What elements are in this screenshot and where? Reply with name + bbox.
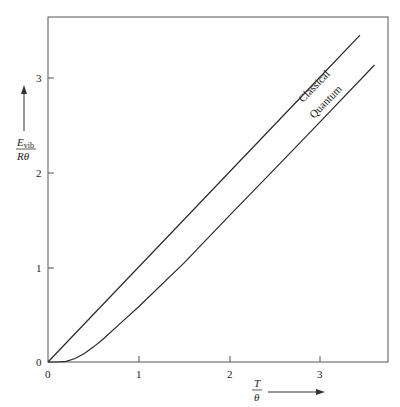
y-tick-label: 0 [36, 356, 42, 368]
plot-frame [48, 17, 388, 362]
arrow-right-icon [316, 389, 325, 395]
svg-text:Evib: Evib [16, 136, 34, 150]
x-axis-label: T θ [252, 377, 325, 403]
y-tick-label: 3 [36, 72, 42, 84]
x-tick-label: 2 [227, 368, 233, 380]
x-tick-label: 1 [136, 368, 142, 380]
x-axis: 0 1 2 3 [45, 356, 323, 380]
chart: 0 1 2 3 0 1 2 3 Evib Rθ T θ Classical Qu… [0, 0, 400, 407]
y-tick-label: 1 [36, 262, 42, 274]
svg-text:Rθ: Rθ [16, 150, 30, 162]
svg-text:T: T [254, 377, 261, 389]
arrow-up-icon [21, 85, 27, 94]
x-tick-label: 3 [317, 368, 323, 380]
svg-text:θ: θ [254, 391, 260, 403]
x-tick-label: 0 [45, 368, 51, 380]
y-axis: 0 1 2 3 [36, 72, 54, 368]
y-axis-label: Evib Rθ [16, 85, 36, 162]
y-tick-label: 2 [36, 167, 42, 179]
